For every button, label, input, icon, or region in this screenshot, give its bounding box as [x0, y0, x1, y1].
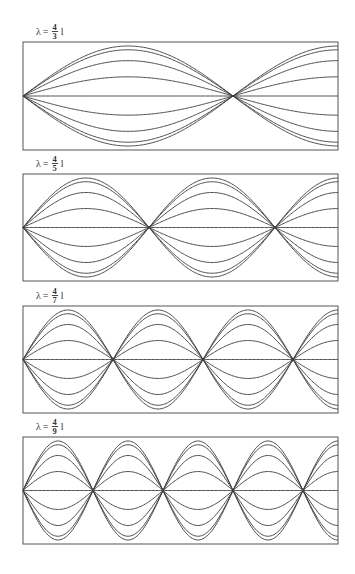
wave-curve	[23, 491, 338, 537]
wave-curve	[23, 325, 338, 360]
wave-curve	[23, 491, 338, 526]
wave-curve	[23, 360, 338, 395]
wave-curve	[23, 472, 338, 491]
wave-curve	[23, 96, 338, 115]
wave-curve	[23, 491, 338, 510]
wave-curve	[23, 209, 338, 228]
wave-curve	[23, 314, 338, 360]
wave-panel-1	[23, 42, 338, 150]
wave-curve	[23, 445, 338, 491]
wave-curve	[23, 77, 338, 96]
wave-curve	[23, 456, 338, 491]
wave-panel-3	[23, 306, 338, 413]
wave-curve	[23, 228, 338, 247]
wave-panel-2	[23, 174, 338, 281]
wave-curve	[23, 360, 338, 406]
wave-panel-4	[23, 437, 338, 544]
standing-wave-figure	[0, 0, 355, 574]
